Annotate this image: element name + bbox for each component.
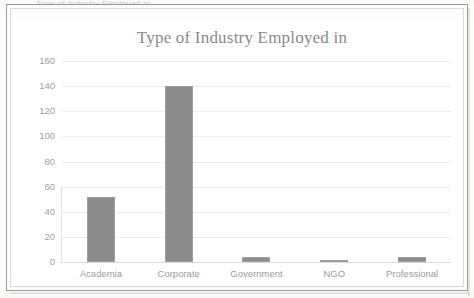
bar-slot — [140, 61, 218, 262]
y-tick-label: 0 — [50, 257, 55, 267]
plot-area: 020406080100120140160 — [62, 61, 451, 262]
chart-frame-inner: Type of Industry Employed in 02040608010… — [10, 8, 464, 287]
chart-frame: Type of Industry Employed in 02040608010… — [6, 4, 468, 291]
y-tick-label: 20 — [44, 232, 55, 242]
bars-layer — [62, 61, 451, 262]
y-tick-label: 60 — [44, 182, 55, 192]
y-tick-label: 160 — [39, 56, 55, 66]
x-tick-label-corporate: Corporate — [158, 268, 200, 280]
bar-slot — [295, 61, 373, 262]
x-axis-labels: AcademiaCorporateGovernmentNGOProfession… — [62, 268, 451, 288]
scanned-page: Type of Industry Employed in Type of Ind… — [0, 0, 474, 298]
bar-slot — [373, 61, 451, 262]
bar-corporate[interactable] — [165, 86, 193, 262]
frame-shadow-bottom — [10, 292, 470, 294]
bar-professional[interactable] — [398, 257, 426, 262]
gridline-0: 0 — [62, 262, 451, 263]
y-tick-label: 80 — [44, 157, 55, 167]
x-tick-label-ngo: NGO — [323, 268, 345, 280]
y-tick-label: 100 — [39, 131, 55, 141]
bar-government[interactable] — [242, 257, 270, 262]
chart-title: Type of Industry Employed in — [11, 28, 473, 48]
x-tick-label-government: Government — [230, 268, 282, 280]
bar-ngo[interactable] — [320, 260, 348, 262]
x-tick-label-academia: Academia — [80, 268, 122, 280]
y-tick-label: 140 — [39, 81, 55, 91]
bar-slot — [62, 61, 140, 262]
x-tick-label-professional: Professional — [386, 268, 438, 280]
bar-academia[interactable] — [87, 197, 115, 262]
y-tick-label: 40 — [44, 207, 55, 217]
frame-shadow-right — [468, 8, 470, 296]
bar-slot — [218, 61, 296, 262]
y-tick-label: 120 — [39, 106, 55, 116]
